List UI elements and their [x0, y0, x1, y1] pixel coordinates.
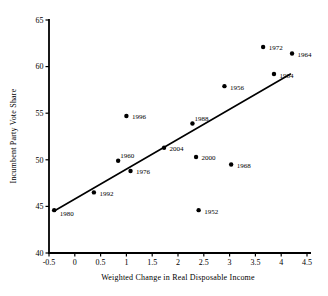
point-label: 1968	[237, 162, 252, 170]
point-label: 1956	[230, 84, 245, 92]
point-label: 1960	[120, 152, 135, 160]
point-label: 1984	[279, 72, 294, 80]
x-axis-title: Weighted Change in Real Disposable Incom…	[101, 273, 255, 282]
y-tick-label: 60	[36, 62, 44, 71]
x-tick-label: 0	[73, 258, 77, 267]
x-tick-label: 2	[176, 258, 180, 267]
scatter-plot-figure: -0.500.511.522.533.544.54045505560651980…	[0, 0, 328, 296]
y-tick-label: 55	[36, 109, 44, 118]
x-tick-label: -0.5	[43, 258, 56, 267]
point-label: 1972	[269, 44, 284, 52]
point-label: 1964	[298, 51, 313, 59]
data-point	[162, 145, 166, 149]
trend-line	[54, 74, 290, 211]
x-tick-label: 4.5	[302, 258, 312, 267]
y-tick-label: 65	[36, 16, 44, 25]
data-point	[124, 114, 128, 118]
y-axis-title: Incumbent Party Vote Share	[9, 89, 18, 184]
data-point	[92, 190, 96, 194]
chart-canvas: -0.500.511.522.533.544.54045505560651980…	[0, 0, 328, 296]
data-point	[52, 208, 56, 212]
data-point	[194, 155, 198, 159]
point-label: 1952	[204, 208, 219, 216]
y-tick-label: 40	[36, 249, 44, 258]
y-tick-label: 45	[36, 202, 44, 211]
data-point	[290, 51, 294, 55]
data-point	[229, 162, 233, 166]
x-tick-label: 2.5	[199, 258, 209, 267]
y-tick-label: 50	[36, 156, 44, 165]
data-point	[196, 208, 200, 212]
point-label: 1996	[132, 113, 147, 121]
x-tick-label: 3	[228, 258, 232, 267]
point-label: 1992	[99, 190, 114, 198]
point-label: 2000	[202, 154, 217, 162]
x-tick-label: 1	[124, 258, 128, 267]
data-point	[128, 169, 132, 173]
x-tick-label: 3.5	[250, 258, 260, 267]
point-label: 1980	[60, 210, 75, 218]
data-point	[222, 84, 226, 88]
data-point	[272, 72, 276, 76]
x-tick-label: 1.5	[147, 258, 157, 267]
point-label: 1988	[194, 115, 209, 123]
x-tick-label: 0.5	[96, 258, 106, 267]
point-label: 1976	[136, 168, 151, 176]
data-point	[261, 45, 265, 49]
x-tick-label: 4	[279, 258, 283, 267]
point-label: 2004	[170, 145, 185, 153]
